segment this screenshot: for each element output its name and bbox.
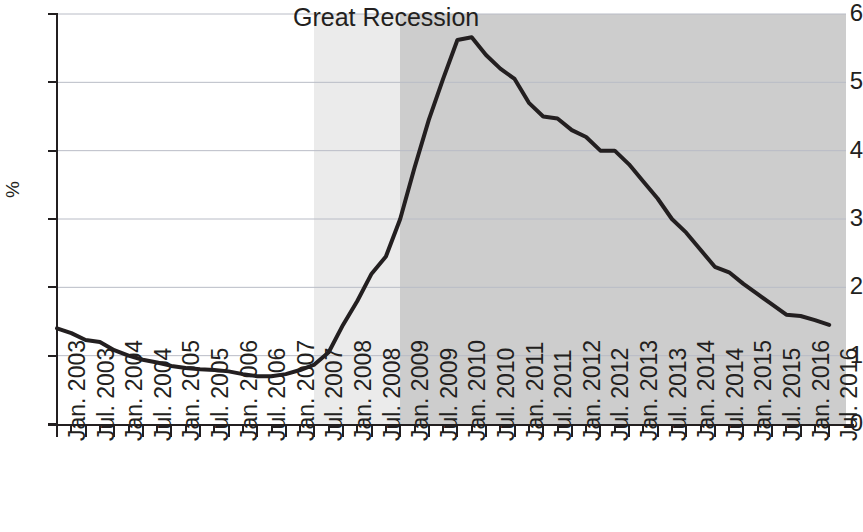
x-tick-label: Jan. 2003 [66, 340, 89, 441]
y-tick-label: 6 [821, 1, 863, 25]
y-tick-mark [48, 355, 57, 357]
x-tick-label: Jan. 2010 [466, 340, 489, 441]
x-tick-label: Jan. 2008 [352, 340, 375, 441]
chart-figure: 0123456 % Jan. 2003Jul. 2003Jan. 2004Jul… [0, 0, 863, 532]
y-tick-label: 2 [821, 274, 863, 298]
x-tick-label: Jul. 2004 [152, 348, 175, 441]
x-tick-label: Jan. 2011 [524, 342, 547, 441]
x-tick-mark [56, 426, 58, 437]
x-tick-label: Jan. 2005 [180, 340, 203, 441]
x-tick-label: Jul. 2010 [495, 348, 518, 441]
x-tick-label: Jan. 2007 [295, 340, 318, 441]
x-tick-label: Jan. 2009 [409, 340, 432, 441]
y-axis-title: % [2, 181, 24, 198]
x-tick-label: Jul. 2016 [838, 348, 861, 441]
y-tick-mark [48, 218, 57, 220]
great-recession-label: Great Recession [293, 5, 479, 30]
x-tick-label: Jul. 2006 [266, 348, 289, 441]
y-tick-label: 5 [821, 69, 863, 93]
x-tick-label: Jan. 2004 [123, 340, 146, 441]
x-tick-label: Jul. 2009 [438, 348, 461, 441]
x-tick-label: Jul. 2015 [781, 348, 804, 441]
x-tick-label: Jul. 2007 [323, 348, 346, 441]
y-tick-label: 4 [821, 138, 863, 162]
y-tick-mark [48, 81, 57, 83]
y-tick-mark [48, 13, 57, 15]
x-tick-label: Jul. 2011 [552, 349, 575, 441]
x-tick-label: Jul. 2013 [667, 348, 690, 441]
x-tick-label: Jul. 2008 [381, 348, 404, 441]
x-tick-label: Jan. 2016 [810, 340, 833, 441]
x-tick-label: Jul. 2012 [609, 348, 632, 441]
x-tick-label: Jan. 2013 [638, 340, 661, 441]
x-tick-label: Jan. 2012 [581, 340, 604, 441]
y-tick-mark [48, 150, 57, 152]
x-tick-label: Jan. 2014 [695, 340, 718, 441]
x-tick-label: Jan. 2015 [752, 340, 775, 441]
x-tick-label: Jul. 2014 [724, 348, 747, 441]
x-tick-label: Jul. 2005 [209, 348, 232, 441]
x-tick-label: Jul. 2003 [95, 348, 118, 441]
x-tick-label: Jan. 2006 [238, 340, 261, 441]
y-tick-mark [48, 286, 57, 288]
data-series-line [57, 37, 829, 376]
y-tick-label: 3 [821, 206, 863, 230]
